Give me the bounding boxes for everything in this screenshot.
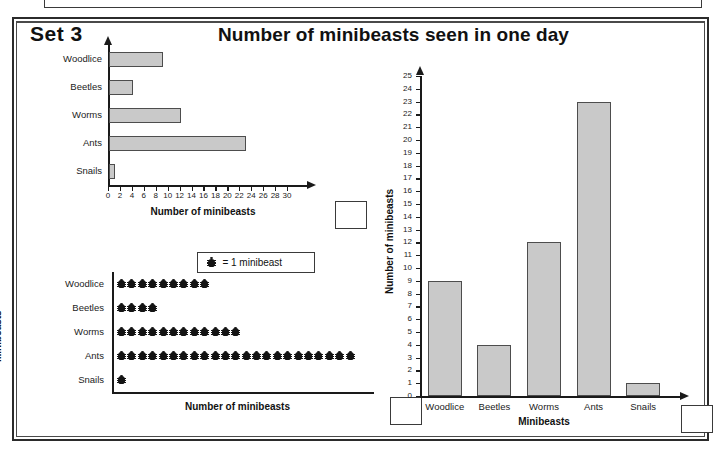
vertical-bar-beetles (477, 345, 511, 396)
vertical-bar-y-tick-label: 8 (394, 289, 412, 298)
horizontal-bar-ants (109, 136, 246, 151)
vertical-bar-y-tick (416, 306, 421, 307)
pictogram-category-label: Snails (24, 374, 104, 385)
pictogram-row-worms (117, 324, 242, 340)
horizontal-bar-x-tick (132, 187, 133, 191)
pictogram-row-woodlice (117, 276, 211, 292)
vertical-bar-y-tick (416, 345, 421, 346)
horizontal-bar-woodlice (109, 52, 163, 67)
beetle-symbol-icon (242, 351, 251, 362)
pictogram-row-ants (117, 348, 356, 364)
horizontal-bar-x-tick (156, 187, 157, 191)
vertical-bar-y-tick-label: 18 (394, 161, 412, 170)
beetle-symbol-icon (190, 351, 199, 362)
vertical-bar-y-tick (416, 255, 421, 256)
horizontal-bar-beetles (109, 80, 133, 95)
answer-box-column-chart[interactable] (681, 405, 713, 433)
vertical-bar-x-axis (420, 396, 680, 398)
vertical-bar-y-tick (416, 281, 421, 282)
vertical-bar-y-tick-label: 5 (394, 327, 412, 336)
beetle-symbol-icon (325, 351, 334, 362)
vertical-bar-y-tick-label: 12 (394, 237, 412, 246)
horizontal-bar-x-axis (108, 185, 307, 187)
pictogram-row-snails (117, 372, 127, 388)
vertical-bar-y-tick-label: 25 (394, 71, 412, 80)
horizontal-bar-x-tick (168, 187, 169, 191)
vertical-bar-woodlice (428, 281, 462, 396)
pictogram-category-label: Beetles (24, 302, 104, 313)
pictogram-y-axis (112, 272, 114, 392)
beetle-symbol-icon (169, 327, 178, 338)
pictogram-x-axis (112, 392, 374, 394)
vertical-bar-y-tick-label: 22 (394, 109, 412, 118)
vertical-bar-y-tick-label: 13 (394, 225, 412, 234)
vertical-bar-y-tick-label: 0 (394, 391, 412, 400)
beetle-symbol-icon (231, 327, 240, 338)
beetle-symbol-icon (148, 327, 157, 338)
vertical-bar-y-tick (416, 102, 421, 103)
page-top-strip (44, 0, 702, 8)
pictogram-row-beetles (117, 300, 159, 316)
pictogram-plot: WoodliceBeetlesWormsAntsSnailsNumber of … (112, 272, 362, 392)
vertical-bar-y-tick (416, 217, 421, 218)
vertical-bar-category-label: Beetles (466, 401, 522, 412)
vertical-bar-y-axis (420, 76, 422, 396)
pictogram-chart: WoodliceBeetlesWormsAntsSnailsNumber of … (20, 268, 360, 428)
horizontal-bar-x-tick (203, 187, 204, 191)
answer-box-bar-chart[interactable] (335, 201, 367, 229)
worksheet-page: Set 3 Number of minibeasts seen in one d… (0, 0, 723, 455)
vertical-bar-y-tick-label: 11 (394, 250, 412, 259)
vertical-bar-y-tick-label: 15 (394, 199, 412, 208)
pictogram-y-axis-title: Minibeasts (0, 310, 3, 362)
horizontal-bar-x-tick (227, 187, 228, 191)
vertical-bar-y-tick (416, 294, 421, 295)
beetle-symbol-icon (283, 351, 292, 362)
vertical-bar-y-tick (416, 242, 421, 243)
beetle-symbol-icon (200, 351, 209, 362)
beetle-symbol-icon (138, 279, 147, 290)
vertical-bar-plot: 0123456789101112131415161718192021222324… (420, 76, 668, 396)
beetle-symbol-icon (148, 351, 157, 362)
beetle-symbol-icon (314, 351, 323, 362)
beetle-symbol-icon (262, 351, 271, 362)
beetle-symbol-icon (138, 351, 147, 362)
horizontal-bar-x-tick (251, 187, 252, 191)
beetle-symbol-icon (294, 351, 303, 362)
vertical-bar-y-tick (416, 230, 421, 231)
vertical-bar-chart: 0123456789101112131415161718192021222324… (372, 62, 702, 432)
beetle-symbol-icon (190, 279, 199, 290)
vertical-bar-y-tick (416, 153, 421, 154)
horizontal-bar-plot: WoodliceBeetlesWormsAntsSnails0246810121… (108, 45, 293, 185)
beetle-symbol-icon (179, 351, 188, 362)
horizontal-bar-x-tick (239, 187, 240, 191)
pictogram-category-label: Woodlice (24, 278, 104, 289)
beetle-symbol-icon (200, 327, 209, 338)
vertical-bar-y-tick-label: 23 (394, 97, 412, 106)
vertical-bar-y-tick-label: 4 (394, 340, 412, 349)
horizontal-bar-y-axis-arrow (104, 36, 112, 45)
vertical-bar-category-label: Ants (566, 401, 622, 412)
beetle-symbol-icon (179, 279, 188, 290)
vertical-bar-y-tick (416, 319, 421, 320)
beetle-symbol-icon (169, 279, 178, 290)
horizontal-bar-x-tick (275, 187, 276, 191)
horizontal-bar-category-label: Snails (24, 165, 102, 176)
vertical-bar-y-tick (416, 358, 421, 359)
beetle-symbol-icon (117, 303, 126, 314)
pictogram-category-label: Ants (24, 350, 104, 361)
beetle-symbol-icon (117, 375, 126, 386)
vertical-bar-y-tick-label: 10 (394, 263, 412, 272)
horizontal-bar-x-tick (144, 187, 145, 191)
beetle-symbol-icon (207, 257, 216, 268)
beetle-symbol-icon (138, 303, 147, 314)
vertical-bar-y-tick (416, 383, 421, 384)
horizontal-bar-x-tick (108, 187, 109, 191)
horizontal-bar-worms (109, 108, 181, 123)
vertical-bar-x-axis-arrow (680, 392, 689, 400)
vertical-bar-category-label: Worms (516, 401, 572, 412)
vertical-bar-x-axis-title: Minibeasts (504, 416, 584, 427)
vertical-bar-y-tick-label: 17 (394, 173, 412, 182)
beetle-symbol-icon (127, 327, 136, 338)
vertical-bar-y-tick-label: 2 (394, 365, 412, 374)
beetle-symbol-icon (211, 327, 220, 338)
